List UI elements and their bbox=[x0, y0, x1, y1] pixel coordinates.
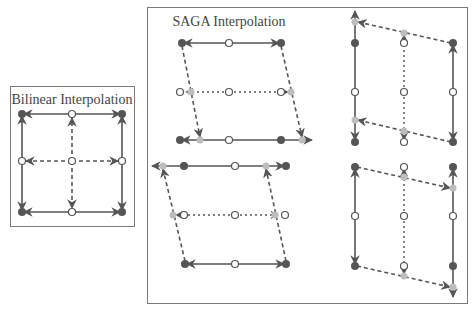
saga-frame bbox=[148, 8, 468, 304]
saga-subpanel-vertical-1 bbox=[351, 11, 457, 146]
interpolation-diagram: Bilinear Interpolation bbox=[0, 0, 475, 314]
saga-subpanel-horizontal-2 bbox=[152, 162, 290, 268]
bilinear-panel: Bilinear Interpolation bbox=[11, 87, 135, 227]
saga-subpanel-horizontal-1 bbox=[176, 39, 312, 144]
saga-subpanel-vertical-2 bbox=[351, 163, 457, 297]
saga-panel: SAGA Interpolation bbox=[148, 8, 468, 304]
saga-title: SAGA Interpolation bbox=[172, 14, 285, 29]
bilinear-title: Bilinear Interpolation bbox=[12, 92, 133, 107]
